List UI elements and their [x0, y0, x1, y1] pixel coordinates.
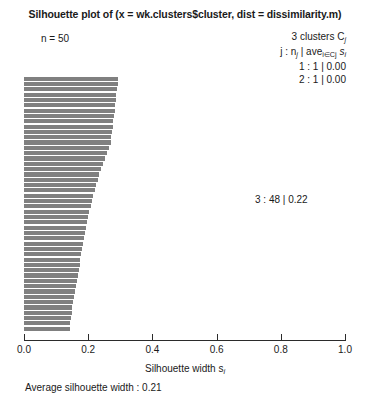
x-axis-tick — [281, 334, 282, 340]
silhouette-bar — [24, 258, 80, 262]
silhouette-bar — [24, 151, 107, 155]
silhouette-bar — [24, 279, 77, 283]
x-axis-tick-label: 0.0 — [17, 344, 31, 355]
silhouette-bar — [24, 295, 74, 299]
silhouette-bar — [24, 156, 105, 160]
x-axis-label: Silhouette width si — [0, 363, 370, 376]
silhouette-bar — [24, 199, 92, 203]
silhouette-bar — [24, 167, 101, 171]
silhouette-bar — [24, 311, 72, 315]
silhouette-bar — [24, 289, 75, 293]
silhouette-bar — [24, 226, 86, 230]
silhouette-bar — [24, 82, 118, 86]
silhouette-bar — [24, 114, 114, 118]
silhouette-bar — [24, 98, 116, 102]
silhouette-bar — [24, 162, 103, 166]
silhouette-bar — [24, 140, 111, 144]
silhouette-bar — [24, 109, 115, 113]
silhouette-bar — [24, 252, 81, 256]
silhouette-bar — [24, 125, 113, 129]
silhouette-bar — [24, 247, 82, 251]
x-axis-tick-label: 1.0 — [338, 344, 352, 355]
silhouette-bar — [24, 119, 113, 123]
silhouette-bar — [24, 321, 70, 325]
silhouette-bar — [24, 220, 87, 224]
x-axis-line — [24, 340, 346, 341]
silhouette-bar — [24, 327, 70, 331]
silhouette-bar — [24, 284, 76, 288]
silhouette-bar — [24, 188, 95, 192]
silhouette-bar — [24, 146, 109, 150]
page-title: Silhouette plot of (x = wk.clusters$clus… — [0, 8, 370, 20]
silhouette-bar — [24, 316, 71, 320]
n-observations-label: n = 50 — [41, 33, 69, 44]
silhouette-bar — [24, 204, 91, 208]
silhouette-bar — [24, 268, 79, 272]
x-axis-tick — [152, 334, 153, 340]
silhouette-bar — [24, 215, 88, 219]
silhouette-bar — [24, 183, 96, 187]
silhouette-bar — [24, 87, 117, 91]
x-axis-tick — [217, 334, 218, 340]
average-silhouette-width-label: Average silhouette width : 0.21 — [25, 382, 162, 393]
silhouette-bar — [24, 130, 112, 134]
x-axis-tick-label: 0.8 — [274, 344, 288, 355]
silhouette-bar — [24, 178, 98, 182]
x-axis-tick-label: 0.6 — [210, 344, 224, 355]
x-axis-tick-label: 0.2 — [81, 344, 95, 355]
silhouette-bar — [24, 135, 111, 139]
silhouette-bar — [24, 242, 83, 246]
silhouette-bar — [24, 236, 84, 240]
bar-panel — [24, 66, 345, 332]
x-axis-tick — [345, 334, 346, 340]
silhouette-bar — [24, 263, 80, 267]
x-axis-tick — [24, 334, 25, 340]
silhouette-bar — [24, 103, 115, 107]
silhouette-bar — [24, 273, 78, 277]
legend-formula: j : nj | avei∈Cj si — [280, 46, 346, 61]
silhouette-plot: Silhouette plot of (x = wk.clusters$clus… — [0, 0, 370, 404]
silhouette-bar — [24, 210, 89, 214]
silhouette-bar — [24, 305, 72, 309]
x-axis-tick — [88, 334, 89, 340]
silhouette-bar — [24, 93, 116, 97]
silhouette-bar — [24, 300, 73, 304]
silhouette-bar — [24, 172, 99, 176]
silhouette-bar — [24, 77, 118, 81]
legend-header: 3 clusters Cj — [280, 31, 346, 46]
silhouette-bar — [24, 231, 85, 235]
silhouette-bar — [24, 194, 93, 198]
x-axis-tick-label: 0.4 — [145, 344, 159, 355]
